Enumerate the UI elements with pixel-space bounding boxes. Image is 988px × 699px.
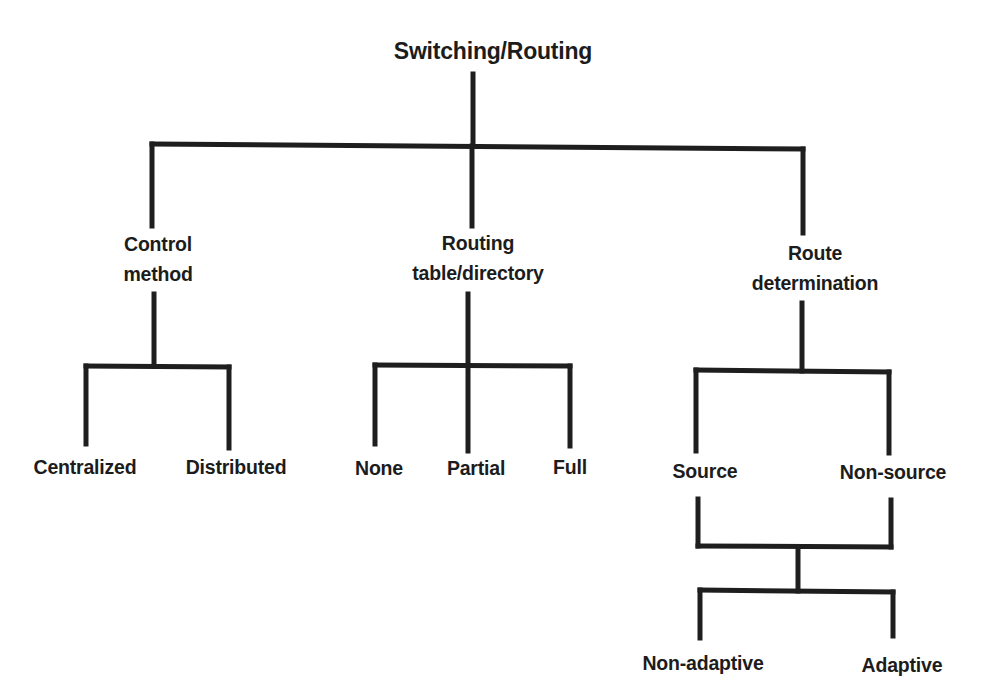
edge-merge-crossbar (698, 546, 891, 547)
edge-adaptivity-crossbar (700, 590, 893, 592)
node-non-adaptive: Non-adaptive (642, 648, 763, 678)
node-distributed: Distributed (186, 452, 287, 482)
node-label-line-1: Control (123, 229, 192, 259)
node-label: Full (553, 452, 587, 482)
node-label: Partial (447, 453, 505, 483)
tree-connector-lines (0, 0, 988, 699)
edge-level1-crossbar (152, 144, 803, 149)
node-label: Adaptive (862, 650, 943, 680)
node-routing-table-directory: Routing table/directory (412, 228, 543, 288)
node-label: Centralized (34, 452, 137, 482)
node-label: Switching/Routing (394, 36, 592, 66)
node-label: Distributed (186, 452, 287, 482)
node-label: Source (673, 456, 738, 486)
node-label: Non-source (840, 457, 946, 487)
edge-route-determination-crossbar (696, 370, 889, 372)
routing-taxonomy-diagram: Switching/Routing Control method Routing… (0, 0, 988, 699)
edge-control-method-crossbar (86, 366, 229, 367)
node-centralized: Centralized (34, 452, 137, 482)
node-non-source: Non-source (840, 457, 946, 487)
node-label-line-2: method (123, 259, 192, 289)
node-route-determination: Route determination (752, 238, 878, 298)
edge-routing-table-crossbar (375, 365, 570, 366)
node-control-method: Control method (123, 229, 192, 289)
node-source: Source (673, 456, 738, 486)
node-partial: Partial (447, 453, 505, 483)
node-label-line-2: determination (752, 268, 878, 298)
node-label-line-1: Route (752, 238, 878, 268)
node-full: Full (553, 452, 587, 482)
node-label-line-2: table/directory (412, 258, 543, 288)
node-none: None (355, 453, 403, 483)
node-adaptive: Adaptive (862, 650, 943, 680)
node-label-line-1: Routing (412, 228, 543, 258)
node-label: Non-adaptive (642, 648, 763, 678)
node-label: None (355, 453, 403, 483)
node-switching-routing: Switching/Routing (394, 36, 592, 66)
